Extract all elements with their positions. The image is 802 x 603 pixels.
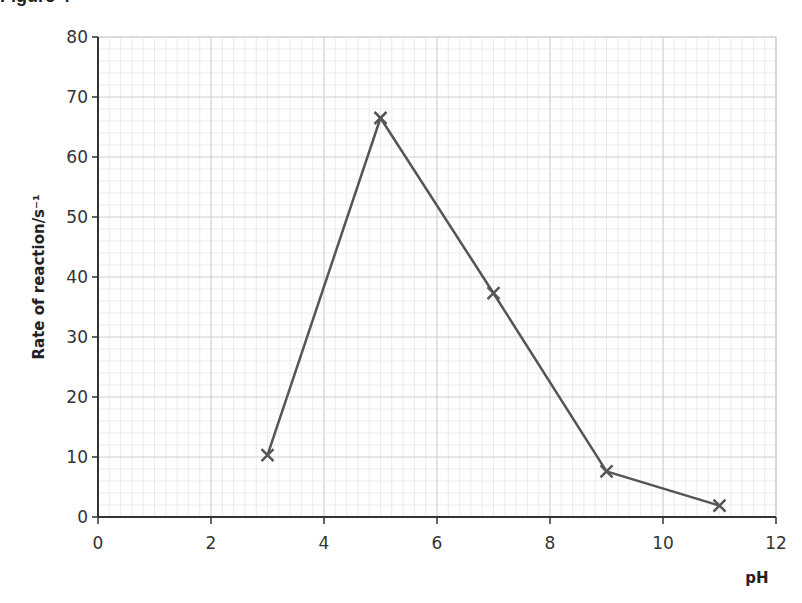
y-tick-label: 60	[66, 147, 88, 167]
x-tick-label: 4	[319, 533, 330, 553]
y-tick-label: 0	[77, 507, 88, 527]
y-tick-label: 20	[66, 387, 88, 407]
x-tick-label: 8	[545, 533, 556, 553]
x-tick-label: 6	[432, 533, 443, 553]
x-axis-title: pH	[745, 569, 768, 587]
line-chart: 01020304050607080024681012 Rate of react…	[0, 0, 802, 603]
x-tick-label: 12	[765, 533, 787, 553]
y-tick-label: 10	[66, 447, 88, 467]
x-tick-label: 0	[93, 533, 104, 553]
x-tick-label: 10	[652, 533, 674, 553]
y-tick-label: 30	[66, 327, 88, 347]
y-tick-label: 50	[66, 207, 88, 227]
y-tick-label: 70	[66, 87, 88, 107]
y-tick-label: 80	[66, 27, 88, 47]
grid	[98, 37, 776, 517]
y-tick-label: 40	[66, 267, 88, 287]
y-axis-title: Rate of reaction/s⁻¹	[30, 194, 48, 359]
x-tick-label: 2	[206, 533, 217, 553]
